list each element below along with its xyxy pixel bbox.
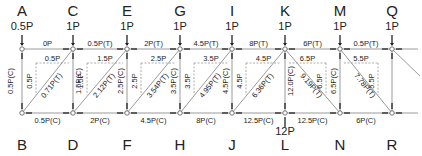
bottom-chord-force-label: 12.5P(C) — [297, 116, 328, 125]
arrowhead-icon — [338, 43, 342, 46]
top-chord-force-label: 2P(T) — [144, 39, 163, 48]
vertical-force-label: 6.5P(C) — [329, 68, 338, 94]
arrowhead-icon — [20, 43, 24, 46]
node-letter-top: C — [68, 2, 79, 19]
component-v-label: 2.5P — [130, 73, 139, 88]
joint-pin-icon — [20, 47, 24, 51]
component-h-label: 3.5P — [203, 54, 218, 63]
node-letter-bottom: H — [175, 136, 186, 153]
node-load-label: 1P — [120, 20, 133, 32]
joint-pin-icon — [20, 111, 24, 115]
component-h-label: 2.5P — [151, 54, 166, 63]
joint-pin-icon — [125, 47, 129, 51]
truss-diagram: 0.5P0.5P0.71P(T)1.5P1.5P2.12P(T)2.5P2.5P… — [0, 0, 422, 156]
diagonal-stub — [392, 49, 420, 76]
node-letter-bottom: N — [335, 136, 346, 153]
node-load-label: 0.5P — [11, 20, 34, 32]
joint-pin-icon — [390, 47, 394, 51]
joint-pin-icon — [71, 111, 75, 115]
arrowhead-icon — [71, 43, 75, 46]
joint-pin-icon — [178, 47, 182, 51]
top-chord-force-label: 8P(T) — [249, 39, 268, 48]
node-load-label: 1P — [173, 20, 186, 32]
component-v-label: 0.5P — [25, 73, 34, 88]
node-letter-top: K — [280, 2, 290, 19]
node-load-label: 1P — [66, 20, 79, 32]
joint-pin-icon — [125, 111, 129, 115]
arrowhead-icon — [178, 43, 182, 46]
joint-pin-icon — [230, 47, 234, 51]
bottom-chord-force-label: 12.5P(C) — [243, 116, 274, 125]
arrowhead-icon — [390, 43, 394, 46]
bottom-chord-force-label: 8P(C) — [196, 116, 216, 125]
joint-pin-icon — [283, 47, 287, 51]
arrowhead-icon — [125, 43, 129, 46]
joint-pin-icon — [390, 111, 394, 115]
vertical-force-label: 0.5P(C) — [6, 68, 15, 94]
joint-pin-icon — [338, 47, 342, 51]
node-letter-bottom: R — [387, 136, 398, 153]
node-letter-top: M — [334, 2, 347, 19]
joint-pin-icon — [283, 111, 287, 115]
vertical-force-label: 1.5P(C) — [74, 68, 83, 94]
joint-pin-icon — [178, 111, 182, 115]
node-letter-bottom: J — [228, 136, 236, 153]
bottom-chord-force-label: 4.5P(C) — [141, 116, 167, 125]
node-letter-top: E — [122, 2, 132, 19]
node-load-label: 12P — [275, 125, 295, 137]
vertical-force-label: 3.5P(C) — [169, 68, 178, 94]
bottom-chord-force-label: 0.5P(C) — [35, 116, 61, 125]
arrowhead-icon — [283, 43, 287, 46]
node-letter-top: I — [230, 2, 234, 19]
node-load-label: 1P — [225, 20, 238, 32]
node-letter-bottom: B — [17, 136, 27, 153]
top-chord-force-label: 4.5P(T) — [193, 39, 219, 48]
node-letter-bottom: D — [68, 136, 79, 153]
bottom-chord-force-label: 2P(C) — [90, 116, 110, 125]
node-letter-top: G — [174, 2, 186, 19]
component-v-label: 4.5P — [235, 73, 244, 88]
vertical-force-label: 4.5P(C) — [221, 68, 230, 94]
node-letter-bottom: F — [122, 136, 131, 153]
node-letter-bottom: L — [281, 136, 289, 153]
component-h-label: 5.5P — [353, 54, 368, 63]
node-letter-top: A — [17, 2, 27, 19]
top-chord-force-label: 0P — [43, 39, 52, 48]
arrowhead-icon — [230, 43, 234, 46]
component-v-label: 3.5P — [183, 73, 192, 88]
top-chord-force-label: 6P(T) — [303, 39, 322, 48]
top-chord-force-label: 0.5P(T) — [87, 39, 113, 48]
component-h-label: 0.5P — [45, 54, 60, 63]
vertical-force-label: 12.0P(C) — [286, 65, 295, 96]
component-h-label: 4.5P — [256, 54, 271, 63]
joint-pin-icon — [338, 111, 342, 115]
bottom-chord-force-label: 6P(C) — [356, 116, 376, 125]
node-letter-top: Q — [386, 2, 398, 19]
node-load-label: 1P — [278, 20, 291, 32]
component-h-label: 1.5P — [97, 54, 112, 63]
top-chord-force-label: 0.5P(T) — [353, 39, 379, 48]
component-h-label: 6.5P — [300, 54, 315, 63]
joint-pin-icon — [230, 111, 234, 115]
joint-pin-icon — [71, 47, 75, 51]
truss-svg: 0.5P0.5P0.71P(T)1.5P1.5P2.12P(T)2.5P2.5P… — [0, 0, 422, 156]
node-load-label: 1P — [385, 20, 398, 32]
vertical-force-label: 2.5P(C) — [116, 68, 125, 94]
node-load-label: 1P — [333, 20, 346, 32]
